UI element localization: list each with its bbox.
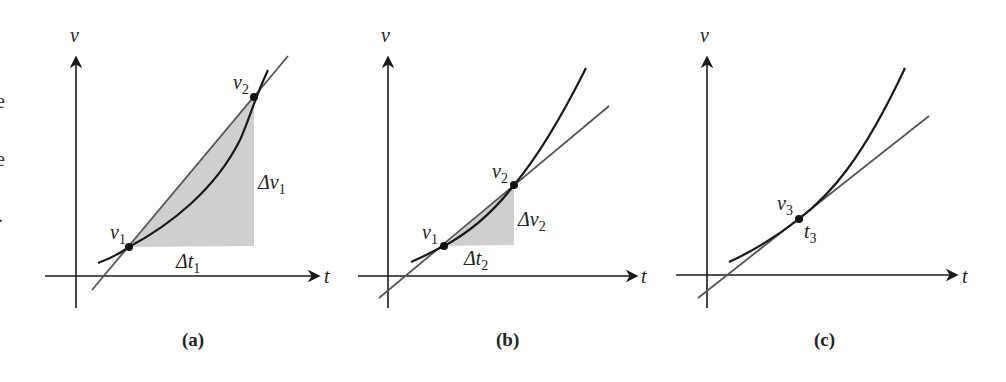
point-v2 xyxy=(250,93,258,101)
left-edge-text-fragments: e e . xyxy=(0,90,5,226)
label-v1: v1 xyxy=(110,221,126,247)
caption-a: (a) xyxy=(182,329,204,351)
point-v1 xyxy=(125,243,133,251)
text-fragment: e xyxy=(0,148,5,170)
label-delta-v1: Δv1 xyxy=(257,171,286,197)
panel-c: v t v3 t3 (c) xyxy=(676,24,968,351)
panel-a: v t v1 v2 Δt1 Δv1 (a) xyxy=(45,24,330,351)
t-axis-label: t xyxy=(324,265,330,287)
text-fragment: . xyxy=(0,204,3,226)
point-v1 xyxy=(440,242,448,250)
caption-b: (b) xyxy=(496,329,519,351)
panel-b: v t v1 v2 Δt2 Δv2 (b) xyxy=(358,24,647,351)
t-axis-label: t xyxy=(641,265,647,287)
label-t3: t3 xyxy=(804,220,817,246)
label-v3: v3 xyxy=(777,192,793,218)
label-delta-t2: Δt2 xyxy=(463,247,488,273)
t-axis-label: t xyxy=(962,265,968,287)
label-v1: v1 xyxy=(422,221,438,247)
velocity-curve xyxy=(729,68,905,262)
point-v2 xyxy=(510,181,518,189)
label-v2: v2 xyxy=(233,71,249,97)
secant-line xyxy=(379,106,609,298)
v-axis-label: v xyxy=(70,24,79,46)
v-axis-label: v xyxy=(700,24,709,46)
label-delta-t1: Δt1 xyxy=(175,250,200,276)
point-v3 xyxy=(795,215,803,223)
figure-canvas: e e . v t v1 v2 Δt1 Δv1 (a) v t xyxy=(0,0,1006,382)
v-axis-label: v xyxy=(381,24,390,46)
text-fragment: e xyxy=(0,90,5,112)
caption-c: (c) xyxy=(814,329,835,351)
label-delta-v2: Δv2 xyxy=(517,208,546,234)
label-v2: v2 xyxy=(492,160,508,186)
